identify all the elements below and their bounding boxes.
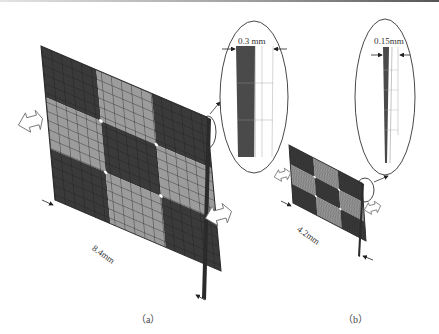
double-arrow-icon-b-left — [273, 167, 293, 183]
thickness-b-label: 0.15mm — [374, 36, 404, 46]
caption-a: （a） — [136, 311, 160, 326]
dimension-arrow-icon — [363, 256, 373, 260]
dimension-arrow-icon — [281, 201, 291, 206]
caption-b: （b） — [343, 311, 368, 326]
plate-a — [41, 46, 221, 271]
thickness-a-label: 0.3 mm — [238, 36, 266, 46]
dimension-arrow-icon — [42, 200, 53, 205]
figure-canvas — [0, 0, 439, 334]
double-arrow-icon-left — [16, 109, 45, 135]
